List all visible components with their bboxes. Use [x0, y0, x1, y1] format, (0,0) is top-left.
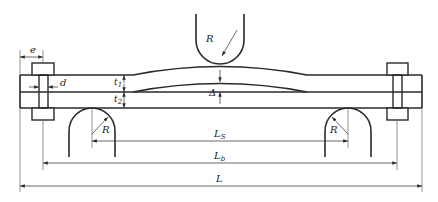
label-r-top: R	[205, 33, 214, 44]
right-clamp-bottom-block	[387, 108, 408, 120]
label-lb: Lb	[213, 150, 226, 163]
label-l: L	[215, 173, 223, 184]
label-d: d	[60, 77, 66, 88]
specimen	[20, 67, 422, 109]
label-r-right: R	[329, 124, 338, 135]
loading-nose	[196, 14, 244, 64]
bending-fixture-diagram: e d t1 t2 Δ R R R LS Lb L	[0, 0, 438, 202]
label-r-left: R	[101, 124, 110, 135]
left-clamp-bottom-block	[32, 108, 54, 120]
upper-plate-bottom-edge	[133, 84, 307, 93]
upper-plate-top-edge	[20, 67, 422, 76]
label-t1: t1	[114, 77, 122, 89]
label-t2: t2	[114, 94, 123, 106]
label-ls: LS	[213, 128, 226, 141]
label-delta: Δ	[208, 87, 216, 98]
left-clamp-top-block	[32, 63, 54, 75]
right-clamp-top-block	[387, 63, 408, 75]
label-e: e	[30, 44, 36, 55]
